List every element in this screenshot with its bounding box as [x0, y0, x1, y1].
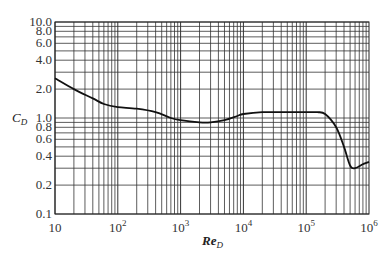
y-tick-label: 10.0 [29, 14, 52, 29]
x-tick-label: 103 [172, 218, 190, 235]
y-axis-ticks: 0.10.20.40.60.81.02.04.06.08.010.0 [29, 14, 52, 221]
x-tick-label: 104 [235, 218, 253, 235]
x-tick-label: 105 [297, 218, 315, 235]
y-tick-label: 0.1 [36, 206, 52, 221]
y-tick-label: 2.0 [36, 81, 52, 96]
x-axis-label: ReD [201, 233, 223, 250]
y-tick-label: 4.0 [36, 52, 52, 67]
grid-lines [55, 22, 369, 214]
x-tick-label: 106 [360, 218, 378, 235]
y-tick-label: 0.2 [36, 177, 52, 192]
cd-curve [55, 78, 369, 168]
y-tick-label: 0.4 [36, 148, 53, 163]
y-axis-label: CD [12, 110, 28, 127]
drag-coefficient-chart: 0.10.20.40.60.81.02.04.06.08.010.0 10102… [0, 0, 392, 256]
x-tick-label: 102 [109, 218, 127, 235]
y-tick-label: 1.0 [36, 110, 52, 125]
x-tick-label: 10 [49, 220, 62, 235]
